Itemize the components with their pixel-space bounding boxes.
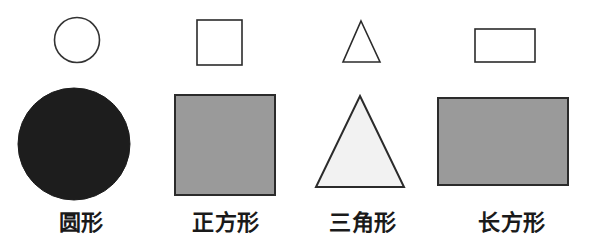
circle-filled-icon [18, 88, 130, 200]
shape-label-triangle-text: 三角形 [329, 210, 397, 235]
shape-label-circle-text: 圆形 [59, 210, 104, 235]
rectangle-filled-icon [438, 98, 568, 185]
shape-label-circle: 圆形 [0, 210, 162, 236]
square-filled-icon [175, 95, 275, 195]
shape-label-triangle: 三角形 [282, 210, 444, 236]
triangle-filled-icon [316, 96, 404, 187]
shape-label-rectangle-text: 长方形 [478, 210, 546, 235]
shapes-reference-sheet: 圆形 正方形 三角形 长方形 [0, 0, 594, 247]
shape-label-square-text: 正方形 [192, 210, 260, 235]
shape-label-rectangle: 长方形 [431, 210, 593, 236]
large-shapes-row [0, 0, 594, 205]
